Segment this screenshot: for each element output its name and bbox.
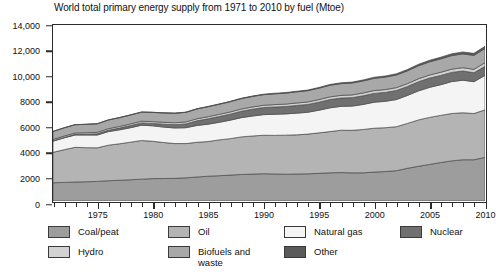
x-tick-minor	[220, 203, 221, 207]
legend-swatch	[168, 226, 190, 238]
x-tick-minor	[87, 203, 88, 207]
x-tick-major	[98, 203, 100, 209]
x-tick-label: 1980	[143, 211, 163, 220]
x-tick-minor	[109, 203, 110, 207]
legend-swatch	[48, 226, 70, 238]
legend-item[interactable]: Other	[284, 246, 338, 258]
x-tick-minor	[353, 203, 354, 207]
x-tick-minor	[175, 203, 176, 207]
legend-item[interactable]: Biofuels and waste	[168, 246, 250, 268]
x-tick-label: 2010	[475, 211, 495, 220]
legend-label: Coal/peat	[78, 226, 119, 237]
legend-item[interactable]: Coal/peat	[48, 226, 119, 238]
plot-area	[52, 24, 487, 203]
y-tick-label: 0	[35, 200, 40, 209]
x-tick-major	[209, 203, 211, 209]
y-tick-label: 10,000	[12, 72, 40, 81]
x-tick-label: 1995	[309, 211, 329, 220]
x-tick-minor	[164, 203, 165, 207]
x-tick-minor	[397, 203, 398, 207]
x-tick-minor	[275, 203, 276, 207]
x-tick-minor	[253, 203, 254, 207]
x-tick-minor	[242, 203, 243, 207]
x-tick-minor	[452, 203, 453, 207]
legend-label: Nuclear	[430, 226, 463, 237]
x-tick-minor	[364, 203, 365, 207]
x-tick-minor	[474, 203, 475, 207]
chart-title: World total primary energy supply from 1…	[54, 2, 344, 13]
x-tick-label: 2005	[420, 211, 440, 220]
x-tick-major	[319, 203, 321, 209]
legend-label: Natural gas	[314, 226, 363, 237]
legend-swatch	[400, 226, 422, 238]
y-axis: 0200040006000800010,00012,00014,000	[0, 24, 48, 203]
x-tick-minor	[441, 203, 442, 207]
x-tick-label: 1975	[88, 211, 108, 220]
x-tick-major	[153, 203, 155, 209]
legend-item[interactable]: Natural gas	[284, 226, 363, 238]
x-tick-minor	[419, 203, 420, 207]
x-tick-minor	[408, 203, 409, 207]
x-tick-major	[264, 203, 266, 209]
x-tick-major	[430, 203, 432, 209]
x-tick-minor	[65, 203, 66, 207]
x-tick-minor	[120, 203, 121, 207]
legend-label: Biofuels and waste	[198, 246, 250, 268]
legend-swatch	[284, 226, 306, 238]
x-tick-minor	[286, 203, 287, 207]
x-tick-minor	[231, 203, 232, 207]
x-tick-minor	[186, 203, 187, 207]
x-tick-label: 1990	[254, 211, 274, 220]
x-tick-minor	[76, 203, 77, 207]
legend-label: Other	[314, 246, 338, 257]
x-tick-minor	[342, 203, 343, 207]
y-tick-label: 4000	[20, 149, 40, 158]
x-tick-minor	[142, 203, 143, 207]
x-tick-minor	[386, 203, 387, 207]
legend-item[interactable]: Hydro	[48, 246, 103, 258]
x-tick-minor	[297, 203, 298, 207]
y-tick-label: 2000	[20, 174, 40, 183]
legend-swatch	[48, 246, 70, 258]
stacked-area-plot	[53, 25, 485, 201]
x-tick-major	[486, 203, 488, 209]
legend-item[interactable]: Oil	[168, 226, 210, 238]
x-tick-minor	[330, 203, 331, 207]
y-tick-label: 12,000	[12, 47, 40, 56]
x-tick-label: 2000	[365, 211, 385, 220]
x-tick-minor	[198, 203, 199, 207]
legend-label: Oil	[198, 226, 210, 237]
x-tick-minor	[463, 203, 464, 207]
legend-swatch	[284, 246, 306, 258]
y-tick-label: 14,000	[12, 21, 40, 30]
x-tick-minor	[54, 203, 55, 207]
legend-swatch	[168, 246, 190, 258]
x-axis: 19751980198519901995200020052010	[52, 203, 487, 225]
legend-item[interactable]: Nuclear	[400, 226, 463, 238]
legend-label: Hydro	[78, 246, 103, 257]
x-tick-major	[375, 203, 377, 209]
y-tick-label: 6000	[20, 123, 40, 132]
x-tick-minor	[308, 203, 309, 207]
x-tick-minor	[131, 203, 132, 207]
x-tick-label: 1985	[199, 211, 219, 220]
chart-legend: Coal/peatOilNatural gasNuclearHydroBiofu…	[48, 226, 495, 278]
y-tick-label: 8000	[20, 98, 40, 107]
